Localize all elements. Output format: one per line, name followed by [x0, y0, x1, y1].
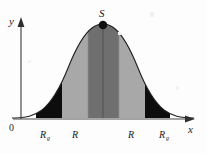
x-axis-arrowhead-icon — [185, 116, 195, 123]
region-label-right-outer: R g — [158, 129, 169, 141]
y-axis-arrowhead-icon — [18, 17, 25, 27]
region-left-dark-band — [88, 18, 103, 119]
region-left-light-band — [62, 18, 88, 119]
region-left-outer-tail — [36, 18, 62, 119]
region-label-left-inner-text: R — [71, 129, 78, 140]
distribution-chart: y x 0 S R g R R R g — [0, 0, 207, 153]
region-right-light-band — [119, 18, 145, 119]
region-label-left-outer-subscript: g — [47, 135, 50, 141]
region-label-left-outer-text: R — [39, 129, 46, 140]
region-right-dark-band — [103, 18, 119, 119]
region-label-right-outer-subscript: g — [166, 135, 169, 141]
region-label-right-inner: R — [127, 129, 134, 140]
region-label-right-outer-text: R — [158, 129, 165, 140]
figure-container: y x 0 S R g R R R g — [0, 0, 207, 153]
x-axis-label: x — [187, 123, 193, 135]
y-axis-label: y — [8, 15, 14, 27]
peak-point-marker — [99, 21, 108, 30]
region-label-left-outer: R g — [39, 129, 50, 141]
shaded-regions-group — [36, 18, 170, 119]
region-label-right-inner-text: R — [127, 129, 134, 140]
region-label-left-inner: R — [71, 129, 78, 140]
peak-label: S — [99, 7, 105, 19]
origin-label: 0 — [9, 122, 14, 133]
